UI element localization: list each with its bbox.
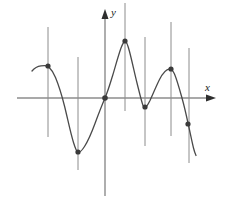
inflection-origin-point — [102, 95, 108, 101]
local-min-2-point — [142, 104, 147, 109]
x-axis-arrowhead — [206, 95, 216, 102]
y-axis-label: y — [110, 6, 116, 18]
local-max-1-point — [45, 63, 50, 68]
x-axis — [17, 95, 216, 102]
local-max-2-point — [122, 38, 127, 43]
y-axis-arrowhead — [102, 9, 109, 19]
local-min-1-point — [75, 149, 80, 154]
function-graph-figure: y x — [0, 0, 227, 206]
inflection-right-point — [185, 121, 190, 126]
graph-canvas: y x — [0, 0, 227, 206]
x-axis-label: x — [204, 81, 210, 93]
local-max-3-point — [168, 66, 173, 71]
vertical-reference-lines — [48, 3, 189, 170]
